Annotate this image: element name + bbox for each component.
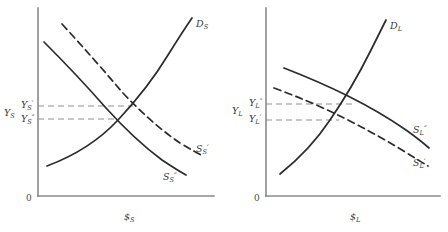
equilibrium-label-ys-prime: YS′ bbox=[21, 99, 34, 113]
x-axis-label-left: $S bbox=[124, 211, 135, 224]
curve-demand-ds bbox=[47, 18, 192, 166]
equilibrium-label-ys-doubleprime: YS″ bbox=[21, 113, 35, 127]
curve-supply-ss-doubleprime bbox=[44, 42, 186, 175]
y-axis-group-label-left: YS bbox=[4, 107, 15, 120]
y-axis-group-label-right: YL bbox=[232, 105, 243, 118]
curve-supply-sl-doubleprime bbox=[284, 68, 429, 148]
equilibrium-label-yl-prime: YL′ bbox=[249, 113, 262, 127]
long-run-plot: 0 YL YL″ YL′ DL SL″ SL′ $L bbox=[224, 0, 448, 232]
panel-long-run: 0 YL YL″ YL′ DL SL″ SL′ $L bbox=[224, 0, 448, 232]
origin-label-right: 0 bbox=[254, 193, 260, 203]
panel-short-run: 0 YS YS′ YS″ DS SS′ SS″ $S bbox=[0, 0, 224, 232]
x-axis-label-right: $L bbox=[350, 211, 360, 224]
curve-label-ss-prime: SS′ bbox=[196, 143, 209, 157]
curve-label-dl: DL bbox=[389, 20, 402, 33]
figure-container: 0 YS YS′ YS″ DS SS′ SS″ $S bbox=[0, 0, 448, 232]
short-run-plot: 0 YS YS′ YS″ DS SS′ SS″ $S bbox=[0, 0, 224, 232]
curve-supply-sl-prime bbox=[274, 88, 428, 166]
curve-label-ss-doubleprime: SS″ bbox=[163, 171, 177, 185]
curve-label-sl-prime: SL′ bbox=[413, 157, 426, 171]
equilibrium-label-yl-doubleprime: YL″ bbox=[249, 97, 263, 111]
curve-label-sl-doubleprime: SL″ bbox=[413, 124, 427, 138]
curve-label-ds: DS bbox=[195, 18, 209, 31]
origin-label-left: 0 bbox=[26, 193, 32, 203]
